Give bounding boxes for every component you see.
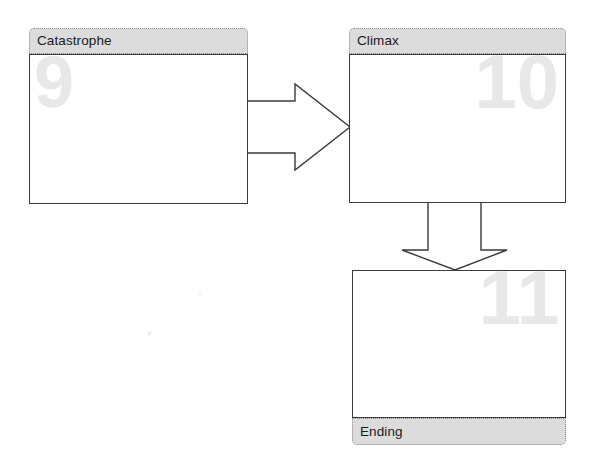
node-catastrophe-body: 9 (29, 54, 248, 204)
node-climax-number: 10 (474, 54, 559, 117)
diagram-canvas: Catastrophe 9 Climax 10 11 Ending (0, 0, 593, 470)
node-ending-header: Ending (352, 418, 566, 445)
node-catastrophe-label: Catastrophe (37, 34, 112, 48)
node-catastrophe[interactable]: Catastrophe 9 (29, 28, 248, 204)
node-ending-number: 11 (479, 270, 559, 333)
node-ending-label: Ending (360, 425, 403, 439)
node-climax[interactable]: Climax 10 (349, 28, 566, 203)
paper-speck (198, 293, 202, 295)
node-ending-body: 11 (352, 270, 566, 418)
connector-climax-to-ending (402, 201, 508, 272)
connector-catastrophe-to-climax (246, 84, 352, 172)
node-ending[interactable]: 11 Ending (352, 270, 566, 445)
node-climax-body: 10 (349, 54, 566, 203)
node-catastrophe-header: Catastrophe (29, 28, 248, 54)
node-climax-label: Climax (357, 34, 399, 48)
node-climax-header: Climax (349, 28, 566, 54)
node-catastrophe-number: 9 (34, 54, 74, 115)
paper-speck (148, 332, 151, 335)
